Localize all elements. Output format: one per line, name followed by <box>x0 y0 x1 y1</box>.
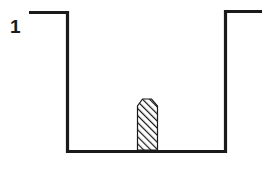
trench-diagram <box>0 0 270 185</box>
hatched-object <box>138 99 158 150</box>
